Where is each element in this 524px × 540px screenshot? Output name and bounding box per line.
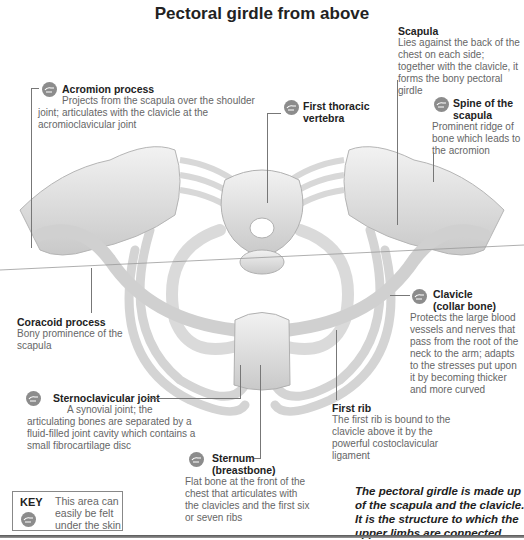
sternum-heading-2: (breastbone) bbox=[185, 464, 310, 476]
clavicle-label: Clavicle (collar bone) Protects the larg… bbox=[410, 288, 524, 396]
coracoid-leader-line bbox=[91, 268, 92, 313]
key-description: This area can easily be felt under the s… bbox=[55, 495, 123, 531]
hand-palpate-icon bbox=[21, 512, 36, 527]
first-rib-label: First rib The first rib is bound to the … bbox=[332, 402, 462, 462]
spine-of-scapula-heading-2: scapula bbox=[432, 109, 524, 121]
acromion-description: Projects from the scapula over the shoul… bbox=[38, 95, 268, 131]
first-rib-leader-line bbox=[336, 330, 337, 400]
vertebra-heading-1: First thoracic bbox=[303, 100, 383, 112]
sternoclavicular-description-2: articulating bones are separated by a fl… bbox=[27, 416, 197, 452]
key-title: KEY bbox=[20, 496, 43, 508]
scapula-label: Scapula Lies against the back of the che… bbox=[398, 25, 522, 97]
sternoclavicular-label: Sternoclavicular joint A synovial joint;… bbox=[27, 392, 197, 452]
acromion-heading: Acromion process bbox=[38, 83, 268, 95]
sternoclavicular-description-1: A synovial joint; the bbox=[27, 404, 197, 416]
spine-of-scapula-description: Prominent ridge of bone which leads to t… bbox=[432, 121, 524, 157]
spine-of-scapula-heading-1: Spine of the bbox=[432, 97, 524, 109]
first-thoracic-vertebra-label: First thoracic vertebra bbox=[303, 100, 383, 124]
vertebra-leader-tick bbox=[267, 113, 281, 114]
spine-of-scapula-label: Spine of the scapula Prominent ridge of … bbox=[432, 97, 524, 157]
scapula-description: Lies against the back of the chest on ea… bbox=[398, 37, 522, 97]
scapula-heading: Scapula bbox=[398, 25, 522, 37]
coracoid-heading: Coracoid process bbox=[17, 316, 127, 328]
clavicle-leader-line bbox=[390, 295, 410, 296]
coracoid-label: Coracoid process Bony prominence of the … bbox=[17, 316, 127, 352]
acromion-leader-line bbox=[31, 88, 32, 248]
clavicle-heading-2: (collar bone) bbox=[410, 300, 524, 312]
acromion-label: Acromion process Projects from the scapu… bbox=[38, 83, 268, 131]
coracoid-description: Bony prominence of the scapula bbox=[17, 328, 127, 352]
sternum-label: Sternum (breastbone) Flat bone at the fr… bbox=[185, 452, 310, 524]
sternum-leader-line bbox=[260, 365, 261, 459]
scapula-leader-line bbox=[397, 80, 398, 225]
vertebra-leader-line bbox=[267, 113, 268, 203]
sternoclavicular-leader-vert bbox=[240, 365, 241, 399]
first-rib-description: The first rib is bound to the clavicle a… bbox=[332, 414, 462, 462]
page-title: Pectoral girdle from above bbox=[0, 4, 524, 24]
bottom-bar bbox=[0, 535, 524, 538]
spine-leader-line bbox=[433, 152, 434, 182]
summary-text: The pectoral girdle is made up of the sc… bbox=[355, 484, 524, 540]
vertebra-heading-2: vertebra bbox=[303, 112, 383, 124]
clavicle-description: Protects the large blood vessels and ner… bbox=[410, 312, 524, 396]
clavicle-heading-1: Clavicle bbox=[410, 288, 524, 300]
sternum-heading-1: Sternum bbox=[185, 452, 310, 464]
sternum-description: Flat bone at the front of the chest that… bbox=[185, 476, 310, 524]
sternoclavicular-leader-line bbox=[145, 398, 240, 399]
hand-palpate-icon bbox=[284, 100, 299, 115]
key-box: KEY This area can easily be felt under t… bbox=[12, 491, 123, 531]
first-rib-heading: First rib bbox=[332, 402, 462, 414]
